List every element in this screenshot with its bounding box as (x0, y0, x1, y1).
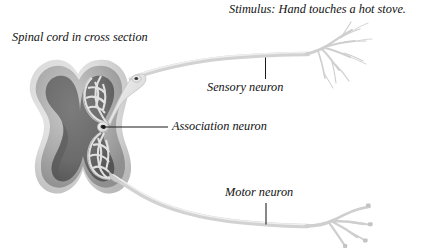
motor-neuron-label: Motor neuron (225, 186, 293, 200)
motor-end-plates (306, 207, 371, 246)
reflex-arc-diagram: Stimulus: Hand touches a hot stove. Spin… (0, 0, 438, 249)
sensory-axon (131, 53, 308, 79)
stimulus-label: Stimulus: Hand touches a hot stove. (229, 3, 406, 17)
spinal-cord-label: Spinal cord in cross section (12, 31, 148, 45)
leader-dot-association (102, 125, 106, 129)
sensory-neuron-label: Sensory neuron (207, 81, 283, 95)
association-neuron-label: Association neuron (172, 120, 267, 134)
sensory-nerve-endings (306, 22, 372, 88)
